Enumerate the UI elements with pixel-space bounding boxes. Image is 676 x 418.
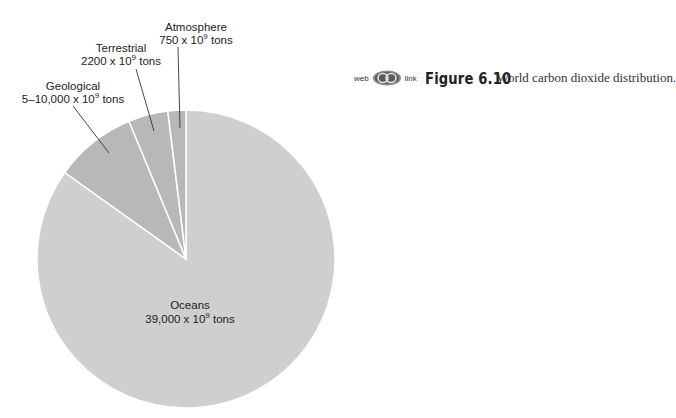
figure-caption-text: World carbon dioxide distribution. xyxy=(497,70,676,86)
figure-number: Figure 6.10 xyxy=(425,69,482,88)
label-oceans-value: 39,000 x 109 tons xyxy=(145,311,235,325)
label-geological-value: 5–10,000 x 109 tons xyxy=(22,91,125,105)
pie-chart: Atmosphere 750 x 109 tons Terrestrial 22… xyxy=(0,0,676,418)
label-oceans-name: Oceans xyxy=(170,299,210,311)
link-label[interactable]: link xyxy=(405,74,417,83)
label-terrestrial-name: Terrestrial xyxy=(96,42,146,54)
label-atmosphere-value: 750 x 109 tons xyxy=(159,32,233,46)
weblink-chain-icon[interactable] xyxy=(372,70,402,86)
label-geological-name: Geological xyxy=(46,80,100,92)
web-label[interactable]: web xyxy=(354,74,369,83)
label-atmosphere-name: Atmosphere xyxy=(165,21,227,33)
label-terrestrial-value: 2200 x 109 tons xyxy=(81,53,161,67)
figure-caption: web link Figure 6.10 World carbon dioxid… xyxy=(354,66,676,90)
